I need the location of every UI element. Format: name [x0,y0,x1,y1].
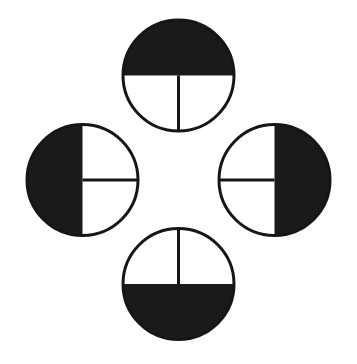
bottom-circle [123,229,234,340]
top-circle-shaded-half [123,20,234,75]
figure-canvas [0,0,357,364]
left-circle [27,125,138,236]
top-circle [123,20,234,131]
left-circle-shaded-half [27,125,82,236]
right-circle-shaded-half [275,125,331,236]
right-circle [219,125,330,236]
bottom-circle-shaded-half [123,284,234,339]
four-circles-figure [0,0,357,364]
